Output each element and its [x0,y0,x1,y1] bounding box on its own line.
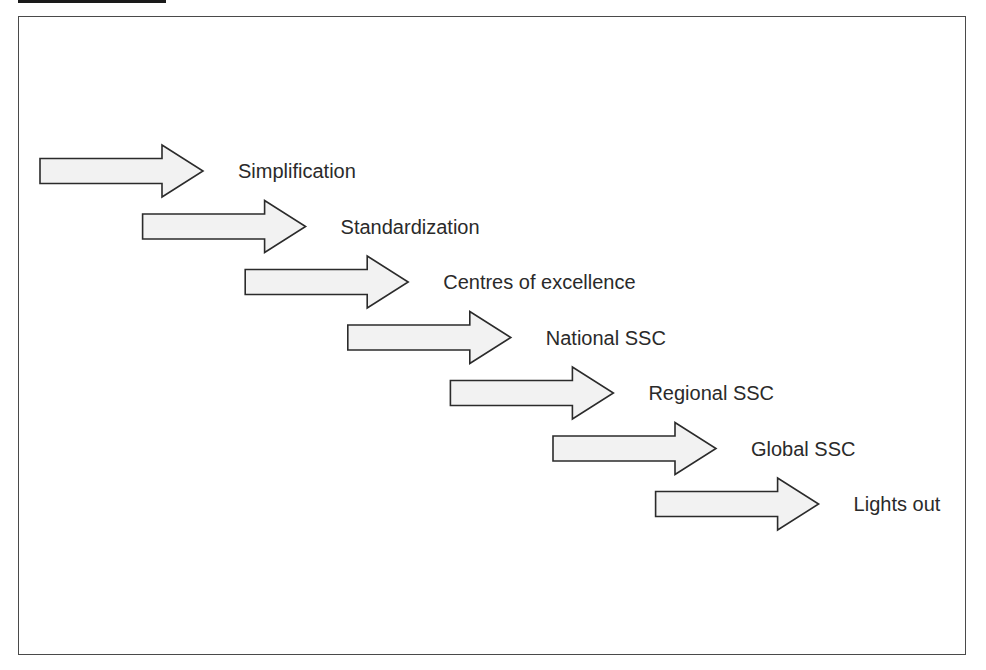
step-label: Regional SSC [648,383,774,403]
step-label: National SSC [546,328,666,348]
step-arrow-icon [245,256,408,308]
step-label: Lights out [854,494,941,514]
step-arrow-icon [553,423,716,475]
step-label: Simplification [238,161,356,181]
step-arrow-icon [656,478,819,530]
step-arrow-icon [450,367,613,419]
step-label: Global SSC [751,439,856,459]
step-label: Centres of excellence [443,272,635,292]
step-arrow-icon [348,312,511,364]
step-arrow-icon [143,201,306,253]
arrow-staircase [0,0,986,670]
step-label: Standardization [341,217,480,237]
step-arrow-icon [40,145,203,197]
